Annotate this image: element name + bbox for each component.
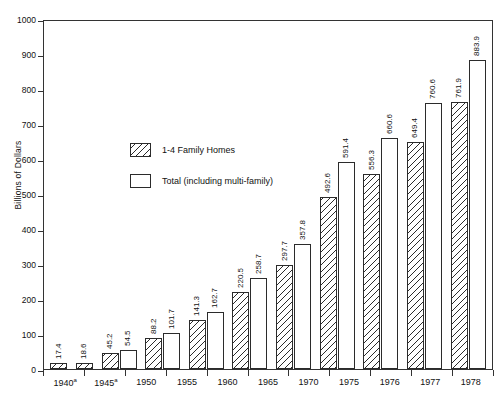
x-axis-label-1955: 1955	[167, 377, 208, 388]
bar-1950-family: 45.2	[102, 353, 119, 369]
bar-value-label: 591.4	[342, 138, 350, 158]
bar-group-1975: 492.6591.4	[320, 21, 355, 369]
bar-group-1977: 649.4760.6	[407, 21, 442, 369]
x-tick-mark	[288, 370, 289, 376]
bar-value-label: 220.5	[237, 268, 245, 288]
bar-1977-total: 760.6	[425, 103, 442, 369]
bar-group-1978: 761.9883.9	[451, 21, 486, 369]
x-tick-mark	[166, 370, 167, 376]
bar-value-label: 258.7	[255, 254, 263, 274]
bar-1960-family: 141.3	[189, 320, 206, 369]
bar-value-label: 297.7	[281, 241, 289, 261]
y-tick-label: 500	[2, 190, 36, 200]
x-tick-mark	[43, 370, 44, 376]
bar-group-1976: 556.3660.6	[363, 21, 398, 369]
x-axis-label-1945: 1945a	[86, 377, 127, 388]
x-tick-mark	[207, 370, 208, 376]
x-axis-label-1978: 1978	[450, 377, 491, 388]
y-tick-label: 700	[2, 120, 36, 130]
bar-1940-family: 17.4	[50, 363, 67, 369]
x-tick-mark	[452, 370, 453, 376]
bar-1977-family: 649.4	[407, 142, 424, 369]
bar-1945-family: 18.6	[76, 363, 93, 370]
bar-value-label: 883.9	[473, 36, 481, 56]
x-axis-label-1950: 1950	[126, 377, 167, 388]
chart-canvas: Billions of Dollars 01002003004005006007…	[0, 0, 500, 398]
bar-1965-family: 220.5	[232, 292, 249, 369]
y-tick-label: 900	[2, 50, 36, 60]
bar-value-label: 18.6	[80, 343, 88, 359]
bar-1975-total: 591.4	[338, 162, 355, 369]
bar-group-1940: 17.4	[50, 21, 67, 369]
bar-1976-total: 660.6	[381, 138, 398, 369]
legend-item-total: Total (including multi-family)	[130, 174, 273, 188]
bar-value-label: 88.2	[150, 319, 158, 335]
bar-1978-total: 883.9	[469, 60, 486, 369]
y-tick-label: 400	[2, 225, 36, 235]
bar-value-label: 141.3	[193, 296, 201, 316]
legend-label-total: Total (including multi-family)	[162, 176, 273, 186]
bar-1965-total: 258.7	[250, 278, 267, 369]
x-axis-label-footnote: a	[74, 377, 77, 383]
bar-value-label: 760.6	[429, 79, 437, 99]
chart-legend: 1-4 Family Homes Total (including multi-…	[130, 143, 273, 205]
bar-value-label: 162.7	[211, 288, 219, 308]
legend-label-1-4-family-homes: 1-4 Family Homes	[162, 145, 235, 155]
y-tick-label: 300	[2, 260, 36, 270]
bar-value-label: 660.6	[386, 114, 394, 134]
x-tick-mark	[125, 370, 126, 376]
x-axis-label-1960: 1960	[207, 377, 248, 388]
bar-group-1945: 18.6	[76, 21, 93, 369]
bar-1970-family: 297.7	[276, 265, 293, 369]
bar-value-label: 492.6	[324, 173, 332, 193]
x-tick-mark	[248, 370, 249, 376]
x-axis-label-1970: 1970	[288, 377, 329, 388]
bar-value-label: 54.5	[124, 330, 132, 346]
y-tick-label: 600	[2, 155, 36, 165]
bar-value-label: 357.8	[299, 220, 307, 240]
legend-item-1-4-family-homes: 1-4 Family Homes	[130, 143, 273, 157]
plot-area: 01002003004005006007008009001000 17.418.…	[43, 20, 493, 370]
bar-value-label: 101.7	[168, 309, 176, 329]
bar-1976-family: 556.3	[363, 174, 380, 369]
bar-1950-total: 54.5	[120, 350, 137, 369]
bar-1970-total: 357.8	[294, 244, 311, 369]
y-tick-label: 800	[2, 85, 36, 95]
bar-1955-family: 88.2	[145, 338, 162, 369]
x-axis-label-1977: 1977	[410, 377, 451, 388]
bar-1975-family: 492.6	[320, 197, 337, 369]
legend-swatch-hatched	[130, 143, 151, 157]
x-axis-label-1976: 1976	[369, 377, 410, 388]
x-axis-label-1940: 1940a	[45, 377, 86, 388]
x-tick-mark	[329, 370, 330, 376]
bar-group-1970: 297.7357.8	[276, 21, 311, 369]
x-tick-mark	[493, 370, 494, 376]
x-tick-mark	[84, 370, 85, 376]
y-tick-label: 200	[2, 295, 36, 305]
bar-value-label: 556.3	[368, 150, 376, 170]
x-tick-mark	[411, 370, 412, 376]
bar-1978-family: 761.9	[451, 102, 468, 369]
bar-value-label: 761.9	[455, 78, 463, 98]
bar-value-label: 649.4	[411, 118, 419, 138]
x-axis-labels: 1940a1945a195019551960196519701975197619…	[43, 377, 493, 388]
x-axis-label-1975: 1975	[329, 377, 370, 388]
bar-value-label: 45.2	[106, 334, 114, 350]
x-tick-mark	[370, 370, 371, 376]
bar-value-label: 17.4	[55, 343, 63, 359]
bar-1960-total: 162.7	[207, 312, 224, 369]
bar-1955-total: 101.7	[163, 333, 180, 369]
y-tick-label: 100	[2, 330, 36, 340]
x-axis-label-footnote: a	[114, 377, 117, 383]
y-tick-label: 1000	[2, 15, 36, 25]
y-tick-label: 0	[2, 365, 36, 375]
x-axis-label-1965: 1965	[248, 377, 289, 388]
legend-swatch-open	[130, 174, 151, 188]
